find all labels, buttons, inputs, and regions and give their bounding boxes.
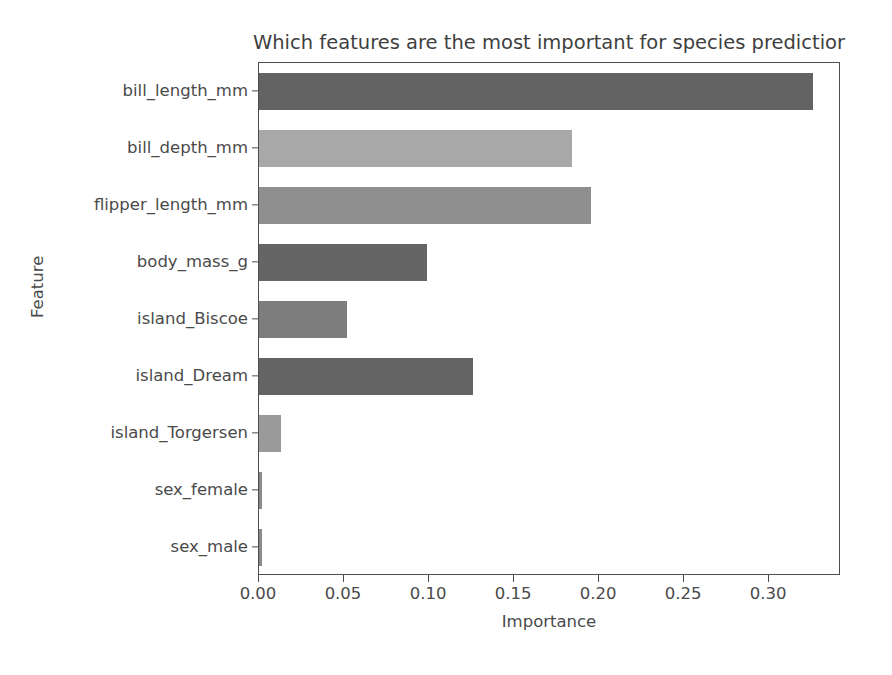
bar-bill_length_mm: [259, 73, 813, 109]
figure-canvas: Which features are the most important fo…: [0, 0, 892, 675]
x-tick-mark-0.00: [258, 575, 259, 582]
x-axis-tick-labels: 0.000.050.100.150.200.250.30: [258, 584, 840, 608]
x-tick-mark-0.10: [428, 575, 429, 582]
x-tick-label-0.00: 0.00: [240, 584, 277, 604]
bar-sex_female: [259, 472, 262, 508]
bar-island_Biscoe: [259, 301, 347, 337]
x-tick-label-0.10: 0.10: [410, 584, 447, 604]
bar-series: [259, 63, 839, 574]
x-tick-label-0.25: 0.25: [665, 584, 702, 604]
x-tick-label-0.05: 0.05: [325, 584, 362, 604]
x-tick-mark-0.05: [343, 575, 344, 582]
chart-title: Which features are the most important fo…: [199, 30, 892, 56]
bar-island_Dream: [259, 358, 473, 394]
x-tick-mark-0.15: [513, 575, 514, 582]
bar-island_Torgersen: [259, 415, 281, 451]
bar-body_mass_g: [259, 244, 427, 280]
x-tick-mark-0.20: [598, 575, 599, 582]
bar-sex_male: [259, 529, 262, 565]
bar-flipper_length_mm: [259, 187, 591, 223]
y-axis-tick-marks: [0, 62, 260, 575]
x-axis-tick-marks: [258, 575, 840, 583]
bar-bill_depth_mm: [259, 130, 572, 166]
x-tick-mark-0.25: [683, 575, 684, 582]
x-tick-mark-0.30: [768, 575, 769, 582]
x-tick-label-0.30: 0.30: [750, 584, 787, 604]
x-tick-label-0.15: 0.15: [495, 584, 532, 604]
plot-area: [258, 62, 840, 575]
x-tick-label-0.20: 0.20: [580, 584, 617, 604]
x-axis-label: Importance: [502, 612, 597, 631]
